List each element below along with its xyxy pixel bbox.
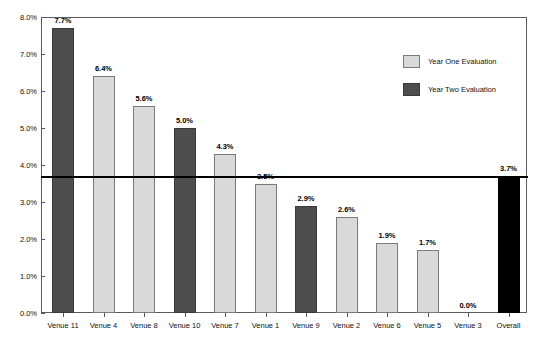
x-axis-tick-mark (468, 313, 469, 317)
y-axis-tick-mark (41, 165, 45, 166)
legend-swatch (403, 83, 420, 96)
legend: Year One EvaluationYear Two Evaluation (403, 52, 523, 108)
x-axis: Venue 11Venue 4Venue 8Venue 10Venue 7Ven… (41, 313, 528, 346)
bar-slot: 2.6% (326, 17, 368, 313)
x-axis-tick-mark (225, 313, 226, 317)
x-axis-tick-mark (306, 313, 307, 317)
x-axis-tick-mark (266, 313, 267, 317)
x-axis-tick-mark (104, 313, 105, 317)
chart-container: 0.0%1.0%2.0%3.0%4.0%5.0%6.0%7.0%8.0% 7.7… (0, 0, 544, 346)
y-axis-tick-label: 7.0% (20, 50, 37, 59)
bar-slot: 5.6% (123, 17, 165, 313)
bar-slot: 1.9% (366, 17, 408, 313)
x-axis-tick-mark (185, 313, 186, 317)
x-axis-tick-label: Overall (479, 321, 539, 330)
y-axis-tick-label: 2.0% (20, 235, 37, 244)
bar-venue-5[interactable] (417, 250, 439, 313)
x-axis-tick-mark (144, 313, 145, 317)
y-axis-tick-label: 0.0% (20, 309, 37, 318)
bar-slot: 7.7% (42, 17, 84, 313)
bar-value-label: 5.6% (123, 94, 165, 103)
bar-venue-4[interactable] (93, 76, 115, 313)
y-axis-tick-mark (41, 91, 45, 92)
bar-value-label: 2.9% (285, 194, 327, 203)
y-axis-tick-mark (41, 276, 45, 277)
bar-value-label: 1.7% (407, 238, 449, 247)
legend-swatch (403, 55, 420, 68)
bar-value-label: 6.4% (83, 64, 125, 73)
bar-venue-9[interactable] (295, 206, 317, 313)
bar-venue-8[interactable] (133, 106, 155, 313)
bar-value-label: 3.7% (488, 164, 530, 173)
bar-venue-10[interactable] (174, 128, 196, 313)
bar-slot: 2.9% (285, 17, 327, 313)
legend-label: Year Two Evaluation (428, 85, 496, 94)
y-axis-tick-mark (41, 202, 45, 203)
bar-value-label: 4.3% (204, 142, 246, 151)
bar-venue-7[interactable] (214, 154, 236, 313)
bar-value-label: 0.0% (447, 301, 489, 310)
y-axis-tick-label: 5.0% (20, 124, 37, 133)
bar-venue-6[interactable] (376, 243, 398, 313)
legend-label: Year One Evaluation (428, 57, 497, 66)
x-axis-tick-mark (387, 313, 388, 317)
y-axis-tick-label: 3.0% (20, 198, 37, 207)
y-axis-tick-mark (41, 128, 45, 129)
bar-value-label: 1.9% (366, 231, 408, 240)
bar-slot: 3.5% (245, 17, 287, 313)
y-axis-tick-mark (41, 239, 45, 240)
bar-slot: 5.0% (164, 17, 206, 313)
bar-value-label: 7.7% (42, 16, 84, 25)
y-axis-tick-label: 4.0% (20, 161, 37, 170)
y-axis-tick-label: 8.0% (20, 13, 37, 22)
bar-value-label: 5.0% (164, 116, 206, 125)
legend-item-year-one[interactable]: Year One Evaluation (403, 52, 523, 71)
y-axis-tick-label: 6.0% (20, 87, 37, 96)
bar-venue-11[interactable] (52, 28, 74, 313)
bar-overall[interactable] (498, 176, 520, 313)
bar-slot: 6.4% (83, 17, 125, 313)
bar-venue-1[interactable] (255, 184, 277, 314)
y-axis: 0.0%1.0%2.0%3.0%4.0%5.0%6.0%7.0%8.0% (0, 0, 37, 346)
x-axis-tick-mark (347, 313, 348, 317)
bar-venue-2[interactable] (336, 217, 358, 313)
bar-value-label: 2.6% (326, 205, 368, 214)
y-axis-tick-mark (41, 54, 45, 55)
bar-slot: 4.3% (204, 17, 246, 313)
x-axis-tick-mark (63, 313, 64, 317)
x-axis-tick-mark (509, 313, 510, 317)
y-axis-tick-label: 1.0% (20, 272, 37, 281)
reference-line (41, 176, 528, 178)
y-axis-tick-mark (41, 313, 45, 314)
x-axis-tick-mark (428, 313, 429, 317)
legend-item-year-two[interactable]: Year Two Evaluation (403, 80, 523, 99)
y-axis-tick-mark (41, 17, 45, 18)
